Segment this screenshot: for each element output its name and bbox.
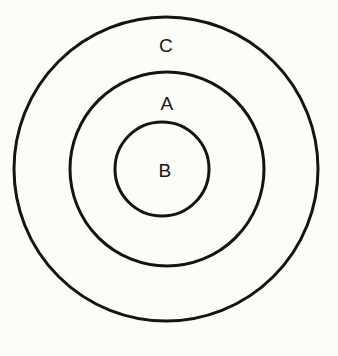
label-outer-c: C: [159, 36, 173, 55]
label-inner-b: B: [159, 161, 172, 180]
label-middle-a: A: [161, 94, 174, 113]
diagram-canvas: C A B: [0, 0, 338, 356]
